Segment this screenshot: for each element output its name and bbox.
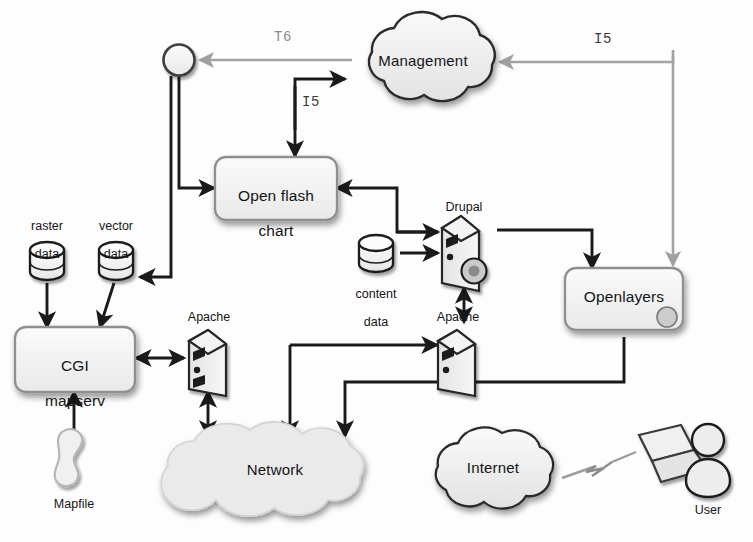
content-data-top bbox=[359, 235, 393, 251]
edge-vector-data-to-cgi bbox=[100, 283, 114, 327]
network-cloud-shape[interactable] bbox=[161, 422, 363, 516]
edge-junction-to-ofc bbox=[179, 76, 214, 188]
lightning-bolt-icon bbox=[586, 462, 612, 476]
node-internet[interactable] bbox=[436, 428, 553, 509]
edge-junction-to-vector-data bbox=[140, 76, 171, 277]
openlayers-globe-icon bbox=[657, 307, 677, 327]
node-mapfile[interactable] bbox=[55, 429, 83, 486]
internet-cloud-shape[interactable] bbox=[436, 428, 553, 509]
apache-right-led-icon bbox=[443, 367, 449, 373]
edge-i5-up-to-management bbox=[295, 79, 345, 130]
architecture-diagram: Management Open flash chart Drupal Openl… bbox=[0, 0, 753, 542]
node-open-flash-chart[interactable] bbox=[215, 157, 337, 220]
junction-circle[interactable] bbox=[164, 45, 195, 76]
node-drupal[interactable] bbox=[442, 216, 487, 291]
edge-drupal-to-openlayers bbox=[497, 230, 592, 268]
node-cgi-mapserv[interactable] bbox=[15, 327, 135, 392]
wireless-line-right bbox=[612, 452, 636, 462]
user-head-icon[interactable] bbox=[692, 424, 724, 456]
drupal-globe-inner-icon bbox=[469, 266, 480, 277]
edge-i5-right-into-management bbox=[500, 50, 673, 62]
node-apache-right[interactable] bbox=[438, 330, 475, 396]
cgi-mapserv-box[interactable] bbox=[15, 327, 135, 392]
mapfile-shape[interactable] bbox=[55, 429, 83, 486]
apache-left-led-icon bbox=[194, 367, 200, 373]
node-apache-left[interactable] bbox=[189, 330, 226, 396]
vector-data-top bbox=[99, 242, 133, 258]
open-flash-chart-box[interactable] bbox=[215, 157, 337, 220]
node-network[interactable] bbox=[161, 422, 363, 516]
diagram-canvas bbox=[0, 0, 753, 542]
node-content-data[interactable] bbox=[359, 235, 393, 272]
edge-openlayers-to-network bbox=[345, 337, 624, 436]
node-management[interactable] bbox=[369, 12, 495, 101]
node-junction[interactable] bbox=[164, 45, 195, 76]
node-raster-data[interactable] bbox=[30, 242, 64, 280]
management-cloud-shape[interactable] bbox=[369, 12, 495, 101]
raster-data-top bbox=[30, 242, 64, 258]
user-body-icon bbox=[686, 459, 730, 497]
node-vector-data[interactable] bbox=[99, 242, 133, 280]
drupal-led-icon bbox=[447, 254, 453, 260]
node-openlayers[interactable] bbox=[565, 268, 683, 330]
edge-drupal-to-ofc bbox=[337, 188, 438, 232]
edge-internet-to-laptop-wireless bbox=[562, 452, 636, 478]
